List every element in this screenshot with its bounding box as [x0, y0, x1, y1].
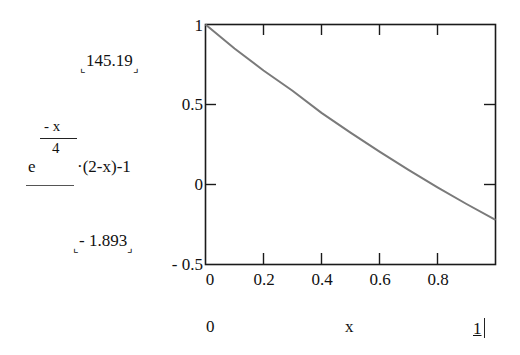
x-tick-label: 0.6 — [360, 271, 400, 288]
expression-base: e — [28, 158, 36, 175]
exponent-fraction-bar — [40, 138, 77, 139]
x-axis-variable[interactable]: x — [345, 318, 354, 335]
function-curve — [206, 25, 496, 220]
x-tick-label: 0.4 — [302, 271, 342, 288]
y-tick-label: 1 — [163, 17, 203, 34]
trace-legend-line — [26, 185, 74, 186]
y-tick-label: 0.5 — [163, 96, 203, 113]
x-lower-limit-field[interactable]: 0 — [206, 318, 215, 335]
exponent-denominator: 4 — [52, 140, 60, 157]
placeholder-corner-left: ⌞ — [80, 61, 86, 75]
text-cursor — [484, 318, 485, 338]
x-upper-limit-value: 1 — [473, 319, 482, 338]
y-lower-limit-value: - 1.893 — [79, 231, 127, 250]
placeholder-corner-right: ⌟ — [133, 61, 139, 75]
y-upper-limit-field[interactable]: ⌞145.19⌟ — [80, 51, 139, 71]
x-tick-marks — [264, 24, 438, 264]
placeholder-corner-right: ⌟ — [127, 241, 133, 255]
y-lower-limit-field[interactable]: ⌞- 1.893⌟ — [73, 231, 133, 251]
y-axis-expression[interactable]: - x 4 e ·(2-x)-1 — [28, 118, 178, 190]
x-tick-label: 0 — [190, 271, 230, 288]
expression-rest: ·(2-x)-1 — [77, 158, 131, 175]
y-upper-limit-value: 145.19 — [86, 51, 133, 70]
exponent-numerator: - x — [44, 118, 60, 135]
x-tick-label: 0.2 — [244, 271, 284, 288]
placeholder-corner-left: ⌞ — [73, 241, 79, 255]
x-tick-label: 0.8 — [418, 271, 458, 288]
x-upper-limit-field[interactable]: 1 — [473, 318, 485, 338]
y-tick-marks — [205, 105, 495, 185]
